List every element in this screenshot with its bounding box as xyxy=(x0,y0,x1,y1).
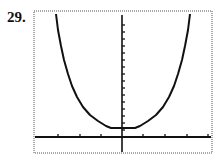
function-curve xyxy=(56,14,190,128)
graph-window xyxy=(0,0,222,168)
